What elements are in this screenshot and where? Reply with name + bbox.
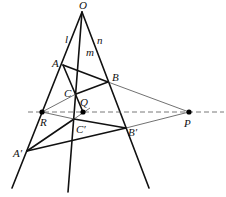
desargues-diagram: O l m n A B C Q R C′ B′ A′ P xyxy=(0,0,226,197)
ext-AB-to-P xyxy=(108,82,189,112)
label-A2: A′ xyxy=(12,147,23,159)
label-m: m xyxy=(86,46,94,58)
line-l xyxy=(12,12,82,188)
point-R xyxy=(39,109,44,114)
label-Q: Q xyxy=(80,96,88,108)
label-l: l xyxy=(65,33,68,45)
label-P: P xyxy=(183,117,191,129)
label-B2: B′ xyxy=(128,126,138,138)
ext-B2C2-to-R xyxy=(42,112,74,119)
point-P xyxy=(186,109,191,114)
line-n xyxy=(82,12,149,188)
label-R: R xyxy=(39,116,47,128)
label-n: n xyxy=(97,34,103,46)
label-C: C xyxy=(64,87,72,99)
label-B: B xyxy=(112,71,119,83)
point-Q xyxy=(80,109,85,114)
label-A: A xyxy=(51,57,59,69)
label-O: O xyxy=(79,0,87,11)
label-C2: C′ xyxy=(76,123,86,135)
side-BC xyxy=(76,82,108,94)
